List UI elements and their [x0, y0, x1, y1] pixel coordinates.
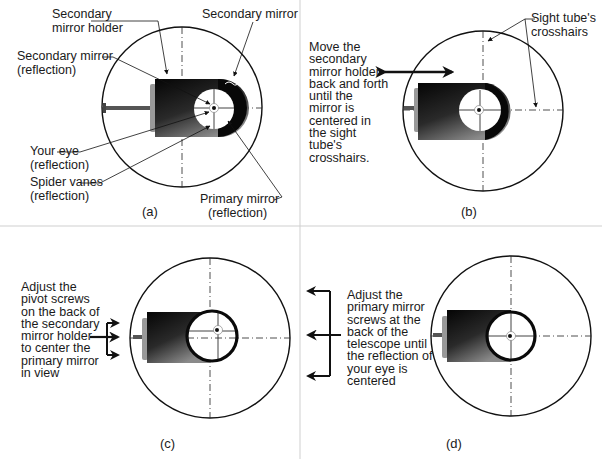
instruction-d: Adjust the primary mirror screws at the … [347, 289, 432, 387]
label-line: Secondary [52, 8, 123, 22]
label-line: (reflection) [200, 207, 279, 221]
panel-label-a: (a) [142, 204, 158, 219]
label-primary-mirror-reflection: Primary mirror (reflection) [200, 193, 279, 220]
panel-c-view [90, 258, 290, 418]
instruction-line: pivot screws [21, 293, 100, 305]
label-line: (reflection) [17, 64, 113, 78]
primary-mirror-reflection [187, 311, 237, 361]
label-line: Primary mirror [200, 193, 279, 207]
eye-reflection [212, 106, 216, 110]
panel-label-c: (c) [160, 436, 175, 451]
label-your-eye-reflection: Your eye (reflection) [30, 145, 89, 172]
instruction-line: in view [21, 367, 100, 379]
instruction-line: centered [347, 375, 432, 387]
label-line: Secondary mirror [17, 50, 113, 64]
panel-label-b: (b) [461, 204, 477, 219]
instruction-line: to center the [21, 342, 100, 354]
instruction-b: Move the secondary mirror holder back an… [309, 41, 388, 164]
label-line: (reflection) [30, 159, 89, 173]
instruction-c: Adjust the pivot screws on the back of t… [21, 281, 100, 379]
instruction-line: secondary [309, 53, 388, 65]
label-secondary-mirror-holder: Secondary mirror holder [52, 8, 123, 35]
label-spider-vanes-reflection: Spider vanes (reflection) [30, 176, 103, 203]
instruction-line: crosshairs. [309, 152, 388, 164]
label-line: Your eye [30, 145, 89, 159]
label-line: Spider vanes [30, 176, 103, 190]
label-line: (reflection) [30, 190, 103, 204]
label-sight-tube-crosshairs: Sight tube's crosshairs [531, 12, 596, 39]
holder-rod [104, 106, 154, 110]
label-secondary-mirror-reflection: Secondary mirror (reflection) [17, 50, 113, 77]
instruction-line: tube's [309, 139, 388, 151]
instruction-line: the reflection of [347, 350, 432, 362]
panel-b-view [385, 19, 563, 191]
instruction-line: mirror is [309, 102, 388, 114]
label-line: crosshairs [531, 26, 596, 40]
panel-label-d: (d) [446, 436, 462, 451]
label-line: mirror holder [52, 22, 123, 36]
label-line: Sight tube's [531, 12, 596, 26]
instruction-line: primary mirror [347, 301, 432, 313]
panel-a-view [57, 21, 282, 200]
label-secondary-mirror: Secondary mirror [202, 8, 298, 22]
primary-screw-arrows [308, 291, 341, 376]
